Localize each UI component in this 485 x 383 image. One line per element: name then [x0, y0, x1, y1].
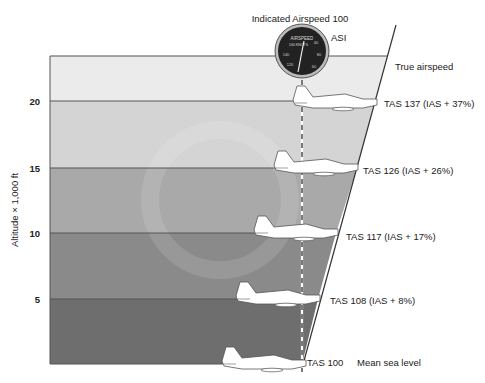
- band-10-15: [50, 168, 357, 233]
- airspeed-altitude-diagram: AIRSPEED KNOTS 160 40 140 80 120 60 Indi…: [0, 0, 485, 383]
- svg-text:140: 140: [283, 52, 290, 57]
- svg-text:160: 160: [289, 42, 296, 47]
- y-axis-label: Altitude × 1,000 ft: [9, 173, 20, 248]
- asi-gauge: AIRSPEED KNOTS 160 40 140 80 120 60: [275, 24, 329, 78]
- tas-label-5k: TAS 108 (IAS + 8%): [330, 295, 415, 306]
- tas-label-sea-level: TAS 100: [307, 357, 343, 368]
- y-tick-10: 10: [29, 228, 40, 239]
- tas-label-10k: TAS 117 (IAS + 17%): [346, 231, 436, 242]
- mean-sea-level-label: Mean sea level: [357, 357, 421, 368]
- tas-label-15k: TAS 126 (IAS + 26%): [363, 165, 453, 176]
- y-tick-15: 15: [29, 163, 40, 174]
- band-20-plus: [50, 56, 387, 101]
- band-0-5: [50, 299, 318, 364]
- tas-label-20k: TAS 137 (IAS + 37%): [384, 98, 474, 109]
- y-tick-5: 5: [35, 294, 41, 305]
- diagram-title: Indicated Airspeed 100: [252, 13, 349, 24]
- svg-text:60: 60: [312, 64, 317, 69]
- svg-text:40: 40: [314, 40, 319, 45]
- asi-label: ASI: [331, 32, 346, 43]
- asi-face-text: AIRSPEED: [291, 36, 315, 41]
- svg-text:120: 120: [287, 62, 294, 67]
- svg-text:80: 80: [317, 52, 322, 57]
- y-tick-20: 20: [29, 96, 40, 107]
- true-airspeed-label: True airspeed: [395, 61, 453, 72]
